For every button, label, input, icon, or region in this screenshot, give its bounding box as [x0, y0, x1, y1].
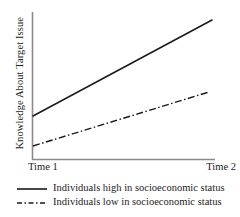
legend-label-high-ses: Individuals high in socioeconomic status — [53, 183, 224, 194]
legend-item-high-ses: Individuals high in socioeconomic status — [16, 181, 224, 196]
x-tick-label-right: Time 2 — [190, 162, 236, 173]
legend: Individuals high in socioeconomic status… — [0, 180, 240, 217]
series-line-high-ses — [33, 20, 212, 116]
series-line-low-ses — [33, 92, 209, 146]
legend-label-low-ses: Individuals low in socioeconomic status — [53, 197, 222, 208]
legend-item-low-ses: Individuals low in socioeconomic status — [16, 195, 222, 210]
plot-area: Knowledge About Target Issue Time 1 Time… — [0, 0, 240, 178]
axes-and-series — [0, 0, 240, 178]
x-tick-label-left: Time 1 — [28, 162, 58, 173]
legend-swatch-solid-icon — [16, 184, 48, 194]
knowledge-gap-figure: Knowledge About Target Issue Time 1 Time… — [0, 0, 240, 217]
legend-swatch-dash-dot-icon — [16, 198, 48, 208]
